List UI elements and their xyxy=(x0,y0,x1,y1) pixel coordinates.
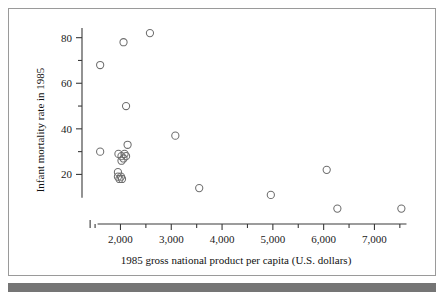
y-axis-group: 20406080 xyxy=(61,29,82,198)
data-point xyxy=(267,191,274,198)
data-point-markers xyxy=(97,30,405,213)
data-point xyxy=(97,148,104,155)
x-axis-tick-labels: 2,0003,0004,0005,0006,0007,000 xyxy=(108,233,387,245)
data-point xyxy=(172,132,179,139)
x-tick-label: 6,000 xyxy=(311,233,336,245)
data-point xyxy=(124,141,131,148)
y-tick-label: 40 xyxy=(61,123,73,135)
data-point xyxy=(122,102,129,109)
data-point xyxy=(334,205,341,212)
data-point xyxy=(323,166,330,173)
x-axis-title: 1985 gross national product per capita (… xyxy=(121,254,352,267)
y-axis-tick-labels: 20406080 xyxy=(61,32,73,181)
y-tick-label: 80 xyxy=(61,32,73,44)
x-tick-label: 2,000 xyxy=(108,233,133,245)
data-point xyxy=(398,205,405,212)
y-tick-label: 20 xyxy=(61,168,73,180)
x-axis-minor-ticks xyxy=(95,224,400,228)
scatter-plot: 20406080 2,0003,0004,0005,0006,0007,000 … xyxy=(0,0,446,298)
x-tick-label: 7,000 xyxy=(362,233,387,245)
y-axis-minor-ticks xyxy=(78,60,82,151)
y-tick-label: 60 xyxy=(61,77,73,89)
x-tick-label: 4,000 xyxy=(210,233,235,245)
y-axis-title: Infant mortality rate in 1985 xyxy=(34,67,46,192)
data-point xyxy=(118,157,125,164)
x-tick-label: 5,000 xyxy=(260,233,285,245)
data-point xyxy=(196,184,203,191)
x-axis-group: 2,0003,0004,0005,0006,0007,000 xyxy=(90,220,406,245)
figure-container: 20406080 2,0003,0004,0005,0006,0007,000 … xyxy=(0,0,446,298)
data-point xyxy=(97,61,104,68)
data-point xyxy=(146,30,153,37)
x-tick-label: 3,000 xyxy=(159,233,184,245)
data-point xyxy=(120,39,127,46)
